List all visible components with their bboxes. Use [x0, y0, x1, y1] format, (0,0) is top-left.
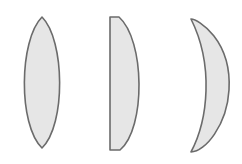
plano-convex-lens-shape [110, 17, 139, 150]
lens-diagram [0, 0, 242, 164]
meniscus-lens-shape [191, 19, 229, 152]
biconvex-lens-shape [24, 17, 59, 148]
